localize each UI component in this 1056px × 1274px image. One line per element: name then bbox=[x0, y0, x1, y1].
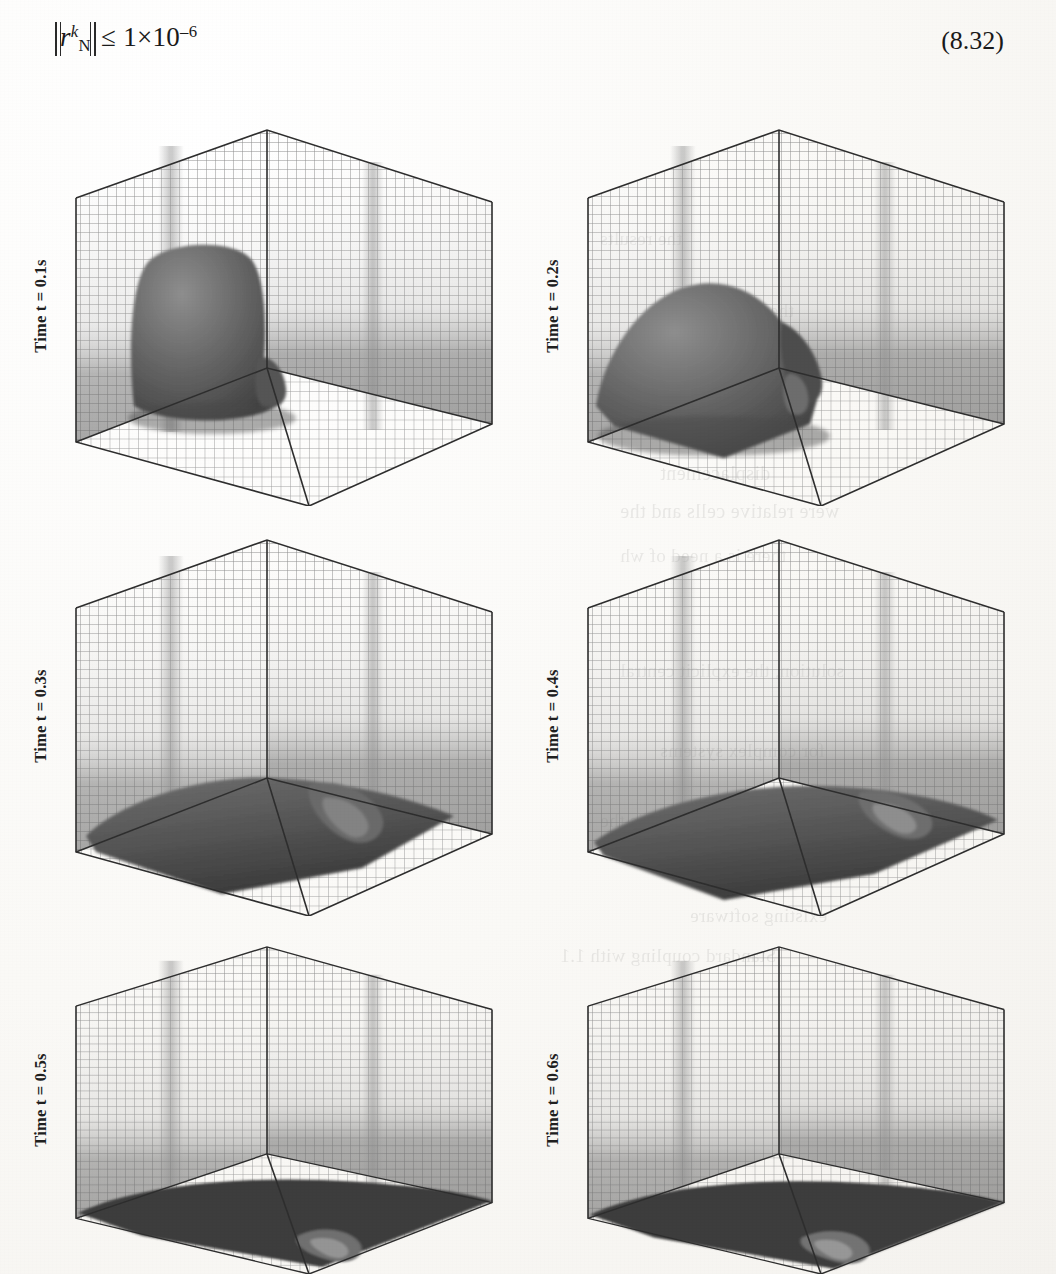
mesh-box bbox=[588, 130, 1004, 506]
panel-t01: Time t = 0.1s bbox=[16, 106, 516, 506]
time-label-text: Time t = 0.6s bbox=[543, 1053, 563, 1146]
mesh-box bbox=[588, 947, 1004, 1274]
panel-t05: Time t = 0.5s bbox=[16, 926, 516, 1274]
time-label-t02: Time t = 0.2s bbox=[536, 106, 570, 506]
time-label-t01: Time t = 0.1s bbox=[24, 106, 58, 506]
norm-bars: rkN bbox=[55, 22, 96, 56]
time-label-t03: Time t = 0.3s bbox=[24, 516, 58, 916]
time-label-text: Time t = 0.1s bbox=[31, 259, 51, 352]
mesh-box bbox=[76, 540, 492, 916]
simulation-figure-grid: Time t = 0.1s bbox=[0, 92, 1056, 1274]
residual-symbol: r bbox=[60, 22, 71, 52]
equation-expression: rkN≤ 1×10–6 bbox=[55, 22, 197, 56]
time-label-t06: Time t = 0.6s bbox=[536, 926, 570, 1274]
mesh-box bbox=[588, 540, 1004, 916]
scene-box-t03 bbox=[62, 516, 510, 916]
time-label-text: Time t = 0.3s bbox=[31, 669, 51, 762]
scene-box-t01 bbox=[62, 106, 510, 506]
residual-superscript: k bbox=[71, 22, 79, 41]
equation-rhs-exponent: –6 bbox=[180, 22, 197, 41]
panel-t03: Time t = 0.3s bbox=[16, 516, 516, 916]
equation-number: (8.32) bbox=[941, 26, 1004, 56]
panel-t04: Time t = 0.4s bbox=[528, 516, 1028, 916]
residual-subscript: N bbox=[79, 36, 91, 55]
relation-symbol: ≤ bbox=[101, 22, 116, 52]
time-label-text: Time t = 0.4s bbox=[543, 669, 563, 762]
time-label-t04: Time t = 0.4s bbox=[536, 516, 570, 916]
panel-t02: Time t = 0.2s bbox=[528, 106, 1028, 506]
scene-box-t06 bbox=[574, 926, 1022, 1274]
scene-box-t04 bbox=[574, 516, 1022, 916]
time-label-t05: Time t = 0.5s bbox=[24, 926, 58, 1274]
scene-box-t02 bbox=[574, 106, 1022, 506]
scene-box-t05 bbox=[62, 926, 510, 1274]
panel-t06: Time t = 0.6s bbox=[528, 926, 1028, 1274]
mesh-box bbox=[76, 130, 492, 506]
mesh-box bbox=[76, 947, 492, 1274]
equation-rhs: 1×10 bbox=[123, 22, 180, 52]
equation-row: rkN≤ 1×10–6 (8.32) bbox=[0, 14, 1056, 78]
time-label-text: Time t = 0.2s bbox=[543, 259, 563, 352]
time-label-text: Time t = 0.5s bbox=[31, 1053, 51, 1146]
